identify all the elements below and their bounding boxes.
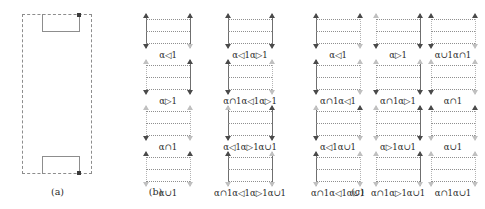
cell-c-r0-c1: α◁1 [310,14,366,48]
cell-c-r3-c3: α∩1α∪1 [425,152,481,186]
right-rail [475,60,476,94]
right-rail [360,60,361,94]
right-rail [272,106,273,140]
connector-line [228,89,272,90]
arrowhead-right-top-icon [187,151,193,156]
arrowhead-left-top-icon [225,59,231,64]
right-rail [190,152,191,186]
connector-line [431,31,475,32]
connector-line [431,157,475,158]
cell-label: α▷1 [126,96,210,106]
cell-c-r0-c2: α▷1 [370,14,426,48]
connector-line [316,31,360,32]
cell-label: α◁1α▷1α∪1 [208,142,292,152]
arrowhead-left-bottom-icon [428,136,434,141]
arrowhead-left-bottom-icon [373,44,379,49]
arrowhead-left-top-icon [428,105,434,110]
arrowhead-right-bottom-icon [417,136,423,141]
arrowhead-left-top-icon [428,13,434,18]
arrowhead-right-top-icon [472,13,478,18]
arrowhead-left-top-icon [225,151,231,156]
connector-line [316,111,360,112]
connector-line [228,19,272,20]
arrowhead-left-top-icon [143,59,149,64]
arrowhead-left-top-icon [373,105,379,110]
right-rail [420,60,421,94]
connector-line [228,43,272,44]
connector-line [376,123,420,124]
figure-canvas: (a) α◁1α▷1α∩1α∪1 (b) α◁1α▷1α◁1α▷1α∪1α∩1α… [0,0,485,209]
right-rail [360,106,361,140]
arrowhead-right-bottom-icon [472,182,478,187]
connector-line [146,65,190,66]
cell-label: α◁1α▷1 [208,50,292,60]
arrowhead-left-bottom-icon [225,182,231,187]
arrowhead-left-top-icon [313,151,319,156]
connector-line [431,77,475,78]
connector-line [146,43,190,44]
connector-line [228,111,272,112]
arrowhead-left-top-icon [313,13,319,18]
arrowhead-right-top-icon [269,151,275,156]
cell-b-1: α▷1 [140,60,196,94]
connector-line [316,169,360,170]
connector-line [316,43,360,44]
arrowhead-right-top-icon [417,151,423,156]
connector-line [316,77,360,78]
right-rail [190,60,191,94]
right-rail [420,152,421,186]
arrowhead-right-top-icon [269,105,275,110]
arrowhead-right-bottom-icon [269,44,275,49]
arrowhead-left-bottom-icon [143,90,149,95]
right-rail [272,14,273,48]
arrowhead-left-bottom-icon [373,136,379,141]
cell-label: α∩1 [126,142,210,152]
arrowhead-left-bottom-icon [143,136,149,141]
arrowhead-right-bottom-icon [357,44,363,49]
cell-c-r1-c3: α∩1 [425,60,481,94]
arrowhead-left-top-icon [225,105,231,110]
cell-b-2: α∩1 [140,106,196,140]
notch-top [42,14,80,32]
connector-line [431,169,475,170]
arrowhead-left-bottom-icon [225,136,231,141]
connector-line [431,43,475,44]
arrowhead-right-bottom-icon [417,90,423,95]
arrowhead-left-top-icon [143,151,149,156]
connector-line [376,135,420,136]
arrowhead-right-top-icon [417,105,423,110]
arrowhead-left-bottom-icon [225,90,231,95]
endpoint-marker-top [77,13,81,17]
connector-line [146,169,190,170]
arrowhead-right-bottom-icon [187,182,193,187]
endpoint-marker-bottom [77,171,81,175]
arrowhead-right-top-icon [187,59,193,64]
connector-line [376,77,420,78]
connector-line [431,65,475,66]
arrowhead-left-bottom-icon [313,90,319,95]
arrowhead-left-bottom-icon [428,44,434,49]
connector-line [316,181,360,182]
connector-line [228,169,272,170]
panel-caption-b: (b) [128,186,183,197]
connector-line [146,111,190,112]
arrowhead-right-top-icon [417,59,423,64]
arrowhead-right-bottom-icon [417,182,423,187]
arrowhead-left-bottom-icon [428,90,434,95]
right-rail [272,60,273,94]
connector-line [376,31,420,32]
connector-line [316,65,360,66]
cell-c-r2-c0: α◁1α▷1α∪1 [222,106,278,140]
arrowhead-right-bottom-icon [472,44,478,49]
connector-line [228,135,272,136]
cell-label: α∩1α∪1 [411,188,485,198]
connector-line [146,19,190,20]
arrowhead-right-bottom-icon [187,90,193,95]
connector-line [431,89,475,90]
connector-line [316,89,360,90]
arrowhead-right-top-icon [187,13,193,18]
connector-line [316,123,360,124]
connector-line [316,19,360,20]
connector-line [316,157,360,158]
arrowhead-left-bottom-icon [313,182,319,187]
